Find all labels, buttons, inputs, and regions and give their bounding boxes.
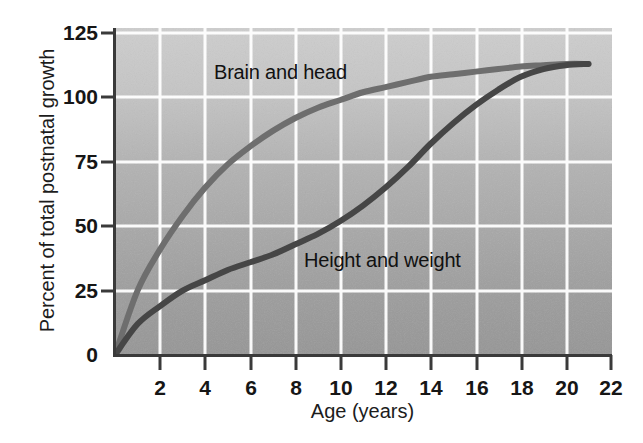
- y-tick-label-125: 125: [36, 22, 98, 43]
- x-tick-label-4: 4: [182, 377, 228, 398]
- x-tick-label-8: 8: [273, 377, 319, 398]
- x-tick-label-10: 10: [318, 377, 364, 398]
- series-label-brain-and-head: Brain and head: [214, 61, 347, 84]
- x-tick-label-16: 16: [454, 377, 500, 398]
- x-tick-label-20: 20: [544, 377, 590, 398]
- y-tick-label-75: 75: [36, 151, 98, 172]
- x-axis-title: Age (years): [113, 400, 612, 423]
- x-tick-label-14: 14: [408, 377, 454, 398]
- y-axis-title: Percent of total postnatal growth: [36, 21, 59, 361]
- y-tick-label-50: 50: [36, 215, 98, 236]
- x-tick-label-12: 12: [363, 377, 409, 398]
- x-tick-label-18: 18: [499, 377, 545, 398]
- x-tick-label-6: 6: [228, 377, 274, 398]
- plot-background: [113, 28, 612, 355]
- y-tick-label-25: 25: [36, 280, 98, 301]
- y-tick-label-100: 100: [36, 86, 98, 107]
- growth-curves-chart: Percent of total postnatal growth 125 10…: [0, 0, 643, 443]
- y-tick-label-0: 0: [36, 344, 98, 365]
- x-tick-label-22: 22: [588, 377, 634, 398]
- y-axis-ticks: [101, 33, 114, 291]
- x-axis-ticks: [160, 355, 611, 370]
- series-label-height-and-weight: Height and weight: [304, 249, 461, 272]
- x-tick-label-2: 2: [137, 377, 183, 398]
